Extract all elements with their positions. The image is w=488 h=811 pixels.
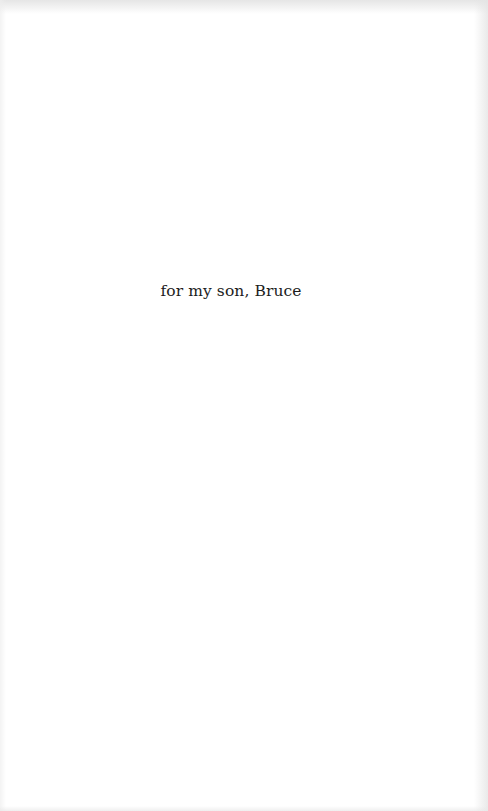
dedication-text: for my son, Bruce: [0, 279, 462, 303]
page-edge-shadow-bottom: [0, 806, 488, 811]
book-page: for my son, Bruce: [0, 0, 488, 811]
page-edge-shadow-left: [0, 0, 6, 811]
page-edge-shadow-top: [0, 0, 488, 14]
page-edge-shadow-right: [474, 0, 488, 811]
